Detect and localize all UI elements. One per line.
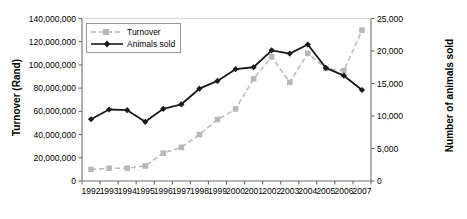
legend-label-turnover: Turnover	[127, 27, 161, 37]
legend-item-animals-sold: Animals sold	[90, 38, 175, 50]
plot-area	[0, 0, 467, 219]
legend-item-turnover: Turnover	[90, 26, 175, 38]
legend-label-animals-sold: Animals sold	[127, 39, 175, 49]
legend-swatch-turnover	[90, 27, 124, 37]
chart-legend: Turnover Animals sold	[86, 23, 181, 53]
chart-container: Turnover (Rand) Number of animals sold 0…	[0, 0, 467, 219]
series-animals-sold	[88, 41, 365, 125]
legend-swatch-animals-sold	[90, 39, 124, 49]
